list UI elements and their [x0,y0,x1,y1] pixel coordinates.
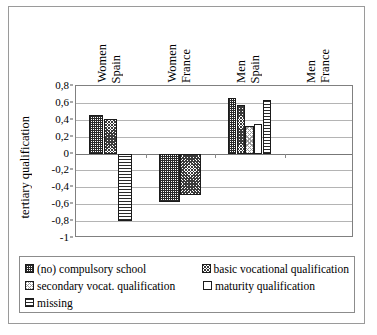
y-tick-mark [70,220,73,221]
y-tick-label: -0,2 [52,164,69,175]
y-tick-mark [70,135,73,136]
y-tick-label: -0,6 [52,198,69,209]
legend-item[interactable]: missing [25,297,73,309]
legend-swatch-icon [25,264,34,273]
legend-swatch-icon [25,281,34,290]
category-label-line: Spain [249,55,262,83]
y-axis-title-label: tertiary qualification [18,116,33,218]
bar [263,100,271,154]
category-label-men-spain: MenSpain [226,9,272,83]
legend-item[interactable]: secondary vocat. qualification [25,280,203,292]
y-tick-mark [70,85,73,86]
y-tick-label: -1 [60,232,69,243]
y-axis-title: tertiary qualification [15,87,35,247]
y-tick-label: 0,2 [55,130,69,141]
bar [118,154,132,222]
category-label-line: Women [166,44,179,83]
category-label-men-france: MenFrance [295,9,341,83]
category-label-women-spain: WomenSpain [87,9,133,83]
category-label-line: Men [305,60,318,83]
bar [180,154,201,195]
y-tick-label: 0 [64,147,70,158]
y-tick-label: -0,4 [52,181,69,192]
y-axis-ticks: 0,80,60,40,20-0,2-0,4-0,6-0,8-1 [35,85,73,237]
chart-figure: WomenSpainWomenFranceMenSpainMenFrance t… [8,6,365,324]
x-axis-tick [215,154,216,158]
legend-swatch-icon [25,298,34,307]
bar [237,105,245,153]
y-tick-label: -0,8 [52,215,69,226]
bar [89,115,103,154]
category-labels: WomenSpainWomenFranceMenSpainMenFrance [9,7,366,85]
x-axis-tick [146,154,147,158]
category-label-line: France [180,49,193,83]
y-tick-mark [70,169,73,170]
y-tick-mark [70,203,73,204]
legend-item-label: basic vocational qualification [214,263,349,275]
bar [228,98,236,154]
y-tick-label: 0,6 [55,96,69,107]
bar [254,124,262,154]
legend-swatch-icon [202,264,211,273]
category-label-line: Men [235,60,248,83]
plot-wrapper: 0,80,60,40,20-0,2-0,4-0,6-0,8-1 [35,85,355,251]
legend-item[interactable]: basic vocational qualification [202,263,349,275]
y-tick-mark [70,118,73,119]
legend-item-label: maturity qualification [215,280,315,292]
y-tick-mark [70,237,73,238]
legend-row: missing [25,294,349,311]
legend-row: secondary vocat. qualificationmaturity q… [25,277,349,294]
bar [159,154,180,202]
legend-swatch-icon [203,281,212,290]
y-tick-mark [70,152,73,153]
category-label-women-france: WomenFrance [156,9,202,83]
y-tick-mark [70,101,73,102]
plot-area [75,85,353,237]
legend-item[interactable]: maturity qualification [203,280,315,292]
category-label-line: Women [96,44,109,83]
legend-item-label: secondary vocat. qualification [37,280,175,292]
y-tick-label: 0,4 [55,113,69,124]
gridline [76,221,352,222]
category-label-line: France [319,49,332,83]
x-axis-tick [285,154,286,158]
y-tick-mark [70,186,73,187]
legend-item[interactable]: (no) compulsory school [25,263,202,275]
legend-row: (no) compulsory schoolbasic vocational q… [25,260,349,277]
chart-legend: (no) compulsory schoolbasic vocational q… [19,256,355,313]
gridline [76,103,352,104]
y-tick-label: 0,8 [55,80,69,91]
bar [104,119,118,154]
category-label-line: Spain [110,55,123,83]
bar [245,126,253,154]
legend-item-label: (no) compulsory school [37,263,146,275]
legend-item-label: missing [37,297,73,309]
